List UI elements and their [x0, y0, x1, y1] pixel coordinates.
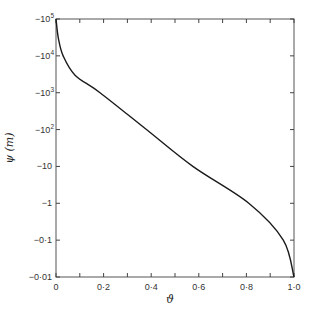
- x-tick-label: 0·4: [145, 282, 158, 292]
- x-tick-label: 1·0: [287, 282, 300, 292]
- x-tick-label: 0·8: [240, 282, 253, 292]
- y-tick-labels: −105−104−103−102−10−1−0·1−0·01: [29, 12, 55, 282]
- x-tick-label: 0·2: [97, 282, 110, 292]
- x-tick-label: 0·6: [192, 282, 205, 292]
- y-tick-label: −102: [35, 123, 54, 135]
- y-tick-label: −0·1: [34, 235, 52, 245]
- series-line-psi: [56, 19, 294, 277]
- y-tick-label: −1: [42, 198, 52, 208]
- y-tick-label: −0·01: [29, 272, 52, 282]
- y-tick-label: −105: [35, 12, 54, 24]
- plot-frame: [56, 19, 294, 277]
- x-tick-label: 0: [53, 282, 58, 292]
- x-tick-labels: 00·20·40·60·81·0: [53, 282, 300, 292]
- y-tick-label: −104: [35, 49, 54, 61]
- chart: 00·20·40·60·81·0 −105−104−103−102−10−1−0…: [0, 0, 309, 312]
- y-axis-label: ψ (m): [3, 132, 16, 163]
- x-ticks: [56, 19, 294, 277]
- y-tick-label: −103: [35, 86, 54, 98]
- x-axis-label: ϑ: [166, 293, 174, 306]
- y-ticks: [56, 19, 294, 277]
- y-tick-label: −10: [37, 161, 52, 171]
